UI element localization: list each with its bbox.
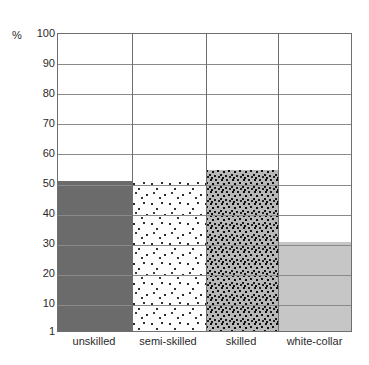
gridline-10: [58, 305, 351, 306]
bar-skilled: [206, 170, 278, 331]
y-tick-label-70: 70: [15, 118, 55, 129]
x-tick-label-skilled: skilled: [205, 335, 277, 347]
y-tick-label-20: 20: [15, 268, 55, 279]
gridline-60: [58, 154, 351, 155]
y-tick-label-1: 1: [15, 326, 55, 337]
y-tick-label-90: 90: [15, 58, 55, 69]
y-tick-label-30: 30: [15, 238, 55, 249]
gridline-40: [58, 215, 351, 216]
gridline-70: [58, 124, 351, 125]
x-tick-label-white-collar: white-collar: [277, 335, 352, 347]
gridline-90: [58, 64, 351, 65]
bar-white-collar: [278, 242, 351, 331]
gridline-50: [58, 185, 351, 186]
y-tick-label-40: 40: [15, 208, 55, 219]
bar-unskilled: [58, 181, 132, 331]
bar-chart: % 100 90 80 70 60 50 40 30 20 10 1 unski…: [0, 0, 369, 365]
plot-area: [57, 33, 352, 332]
gridline-80: [58, 94, 351, 95]
y-tick-label-10: 10: [15, 298, 55, 309]
y-tick-label-100: 100: [15, 28, 55, 39]
y-tick-label-80: 80: [15, 88, 55, 99]
x-tick-label-unskilled: unskilled: [57, 335, 131, 347]
category-separator-1: [132, 34, 133, 331]
gridline-30: [58, 245, 351, 246]
category-separator-3: [278, 34, 279, 331]
category-separator-2: [206, 34, 207, 331]
y-tick-label-50: 50: [15, 178, 55, 189]
x-tick-label-semi-skilled: semi-skilled: [131, 335, 205, 347]
gridline-20: [58, 275, 351, 276]
y-tick-label-60: 60: [15, 148, 55, 159]
bar-semi-skilled: [132, 181, 206, 331]
